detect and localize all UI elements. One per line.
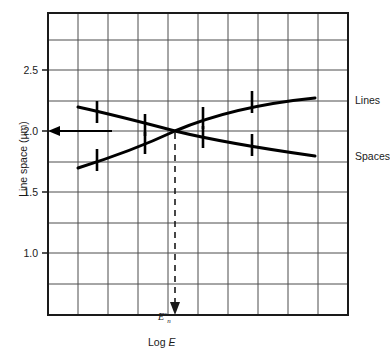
series-spaces [78,101,315,156]
x-axis-title-prefix: Log [148,336,168,348]
x-axis-title-variable: E [168,336,175,348]
plot-canvas [0,0,390,355]
y-axis-title: Line space (µm) [17,121,29,197]
y-tick-label-2-5: 2.5 [12,65,38,76]
x-axis-title: Log E [148,336,175,348]
chart-figure: 2.5 2.0 1.5 1.0 Lines Spaces Line space … [0,0,390,355]
crossover-horizontal-arrow [48,126,112,136]
crossover-annotation-label: Exn [158,310,171,325]
crossover-dashed-line [170,133,180,315]
legend-label-lines: Lines [355,95,380,106]
grid-vertical-lines [78,13,318,315]
crossover-label-sub: n [167,317,171,325]
legend-label-spaces: Spaces [355,151,390,162]
y-axis-title-wrap: Line space (µm) [13,89,31,229]
y-tick-label-1-0: 1.0 [12,248,38,259]
